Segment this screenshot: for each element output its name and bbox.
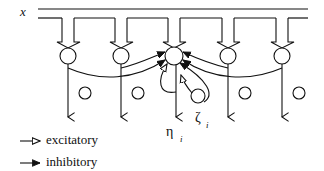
- neuron-4: [220, 48, 236, 64]
- neuron-2: [113, 48, 129, 64]
- neurons: [60, 47, 290, 65]
- input-bus: [38, 9, 308, 18]
- neuron-5: [274, 48, 290, 64]
- self-loop: [161, 63, 209, 103]
- legend-excitatory-label: excitatory: [46, 132, 98, 148]
- neuron-center: [165, 47, 183, 65]
- legend-inhibitory-label: inhibitory: [46, 154, 97, 170]
- output-label: η: [166, 124, 173, 140]
- legend-markers: [20, 141, 40, 163]
- input-label: x: [20, 4, 26, 20]
- neuron-1: [60, 48, 76, 64]
- self-loop-subscript: i: [206, 120, 209, 130]
- self-loop-label: ζ: [195, 110, 201, 126]
- input-arrows: [57, 18, 294, 48]
- output-subscript: i: [180, 134, 183, 144]
